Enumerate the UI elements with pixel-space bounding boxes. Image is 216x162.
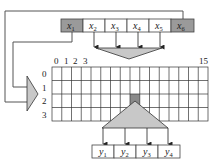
col-label-3: 3 [83,56,88,66]
row-label-3: 3 [42,110,47,120]
col-label-1: 1 [64,56,69,66]
row-label-0: 0 [42,69,47,79]
col-label-2: 2 [73,56,78,66]
column-decoder-funnel [96,48,162,59]
sbox-diagram: x1 x2 x3 x4 x5 x6 0 1 2 3 15 0 1 2 3 [0,0,216,162]
col-label-0: 0 [54,56,59,66]
output-expander-triangle [102,101,168,128]
col-label-15: 15 [199,56,209,66]
row-label-1: 1 [42,83,47,93]
output-register: y1 y2 y3 y4 [92,145,180,158]
row-decoder-triangle [27,76,38,111]
column-select-arrows [94,32,160,47]
row-label-2: 2 [42,96,47,106]
output-arrows [103,128,168,144]
input-register: x1 x2 x3 x4 x5 x6 [61,19,194,32]
row-labels: 0 1 2 3 [42,69,47,120]
